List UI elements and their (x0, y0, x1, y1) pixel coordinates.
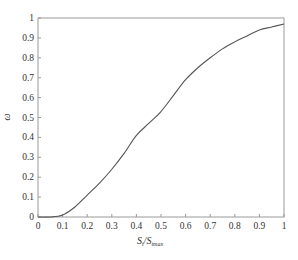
x-tick-label: 0 (36, 221, 41, 231)
y-tick-label: 0.7 (22, 73, 34, 83)
x-tick-label: 0.5 (155, 221, 167, 231)
x-tick-label: 1 (282, 221, 287, 231)
x-tick-label: 0.2 (81, 221, 93, 231)
y-tick-label: 0.6 (22, 93, 34, 103)
line-chart: 00.10.20.30.40.50.60.70.80.91 00.10.20.3… (0, 0, 298, 260)
y-tick-label: 1 (29, 13, 34, 23)
y-tick-label: 0.5 (22, 113, 34, 123)
y-tick-label: 0.2 (22, 172, 34, 182)
x-tick-label: 0.8 (229, 221, 241, 231)
y-tick-label: 0.1 (22, 192, 34, 202)
x-tick-label: 0.9 (253, 221, 265, 231)
y-tick-label: 0.4 (22, 132, 34, 142)
y-tick-label: 0.9 (22, 33, 34, 43)
y-tick-label: 0 (29, 212, 34, 222)
plot-border (38, 18, 284, 217)
x-tick-label: 0.3 (106, 221, 118, 231)
x-tick-label: 0.6 (180, 221, 192, 231)
y-tick-label: 0.3 (22, 152, 34, 162)
y-tick-label: 0.8 (22, 53, 34, 63)
y-axis-title: ω (1, 113, 12, 120)
x-axis-title: St/Stmax (137, 235, 163, 247)
data-series-line (38, 24, 284, 217)
x-tick-label: 0.7 (204, 221, 216, 231)
plot-frame (38, 18, 284, 217)
x-tick-label: 0.4 (130, 221, 142, 231)
x-tick-label: 0.1 (57, 221, 69, 231)
